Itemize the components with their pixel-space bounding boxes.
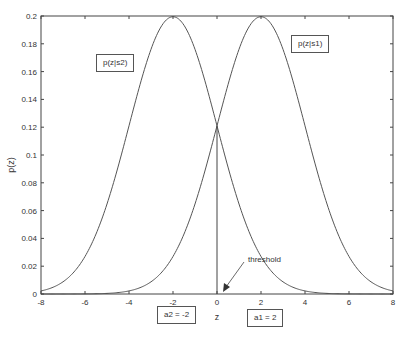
axis-ticks: -8-6-4-20246800.020.040.060.080.10.120.1…: [21, 12, 395, 307]
x-tick-label: 8: [391, 298, 396, 307]
x-tick-label: -6: [81, 298, 89, 307]
y-tick-label: 0.12: [21, 123, 37, 132]
x-axis-label: z: [215, 312, 220, 322]
a1-label-box: a1 = 2: [247, 309, 283, 327]
y-axis-label: p(z): [6, 157, 16, 173]
x-tick-label: 4: [303, 298, 308, 307]
x-tick-label: -8: [37, 298, 45, 307]
y-tick-label: 0.02: [21, 262, 37, 271]
y-tick-label: 0.2: [26, 12, 38, 21]
x-tick-label: 0: [215, 298, 220, 307]
legend-box-s2: p(z|s2): [96, 54, 134, 72]
x-tick-label: 2: [259, 298, 264, 307]
y-tick-label: 0.18: [21, 40, 37, 49]
y-tick-label: 0.08: [21, 179, 37, 188]
threshold-arrow: [223, 262, 244, 292]
y-tick-label: 0.14: [21, 95, 37, 104]
x-tick-label: 6: [347, 298, 352, 307]
a2-label-box: a2 = -2: [157, 306, 196, 324]
y-tick-label: 0.1: [26, 151, 38, 160]
y-tick-label: 0.06: [21, 207, 37, 216]
y-tick-label: 0.04: [21, 234, 37, 243]
x-tick-label: -4: [125, 298, 133, 307]
y-tick-label: 0.16: [21, 68, 37, 77]
y-tick-label: 0: [33, 290, 38, 299]
threshold-label: threshold: [248, 255, 281, 264]
legend-box-s1: p(z|s1): [291, 35, 329, 53]
gaussian-chart: -8-6-4-20246800.020.040.060.080.10.120.1…: [0, 0, 406, 340]
